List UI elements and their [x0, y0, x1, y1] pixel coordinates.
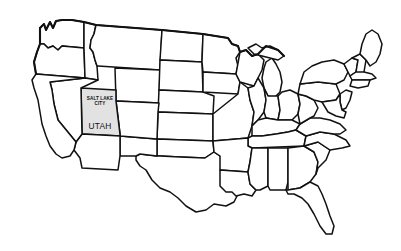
state-mississippi[interactable] [248, 148, 268, 190]
state-ohio[interactable] [278, 90, 300, 120]
state-oregon[interactable] [34, 44, 85, 78]
state-wyoming[interactable] [115, 68, 160, 103]
state-montana[interactable] [90, 25, 162, 70]
us-map-figure: SALT LAKE CITY UTAH [0, 0, 401, 251]
state-kansas[interactable] [157, 112, 213, 141]
state-new-york[interactable] [300, 60, 348, 84]
state-minnesota[interactable] [202, 34, 240, 74]
state-arizona[interactable] [74, 134, 120, 170]
state-alabama[interactable] [268, 148, 288, 190]
state-colorado[interactable] [116, 101, 159, 139]
state-nebraska[interactable] [158, 90, 214, 114]
state-connecticut-rhode-island[interactable] [350, 80, 370, 88]
state-iowa[interactable] [203, 72, 240, 94]
state-oklahoma[interactable] [157, 139, 214, 158]
state-north-dakota[interactable] [160, 30, 203, 62]
state-utah-highlighted[interactable] [81, 88, 120, 136]
us-map-svg [0, 0, 401, 251]
state-south-dakota[interactable] [159, 60, 203, 92]
state-outlines-group [32, 20, 382, 234]
state-massachusetts[interactable] [350, 72, 376, 80]
state-florida[interactable] [286, 182, 334, 234]
